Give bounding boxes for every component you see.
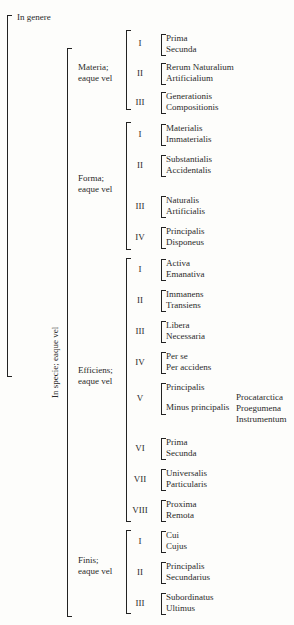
- term-pair: Immanens Transiens: [166, 289, 204, 311]
- forma-label: Forma; eaque vel: [78, 173, 112, 195]
- numeral: III: [131, 201, 149, 212]
- term-pair: Materialis Immaterialis: [166, 123, 211, 145]
- term-pair: Per se Per accidens: [166, 351, 211, 373]
- term-pair: Rerum Naturalium Artificialium: [166, 62, 234, 84]
- efficiens-label: Efficiens; eaque vel: [78, 365, 113, 387]
- numeral: VI: [131, 443, 149, 454]
- numeral: III: [131, 598, 149, 609]
- term-pair: Universalis Particularis: [166, 468, 207, 490]
- term-pair: Generationis Compositionis: [166, 91, 219, 113]
- numeral: II: [131, 567, 149, 578]
- numeral: II: [131, 295, 149, 306]
- numeral: V: [131, 393, 149, 404]
- numeral: I: [131, 129, 149, 140]
- numeral: II: [131, 68, 149, 79]
- numeral: I: [131, 536, 149, 547]
- materia-label: Materia; eaque vel: [78, 62, 112, 84]
- forma-bracket: [126, 122, 131, 250]
- term-pair: Proxima Remota: [166, 499, 197, 521]
- term-pair: Subordinatus Ultimus: [166, 592, 214, 614]
- term-pair: Naturalis Artificialis: [166, 195, 205, 217]
- term-pair: Principalis Secundarius: [166, 561, 210, 583]
- minus-principalis-subterms: Procatarctica Proegumena Instrumentum: [236, 392, 287, 425]
- numeral: III: [131, 97, 149, 108]
- in-specie-bracket: [67, 48, 72, 617]
- term-pair: Principalis Disponeus: [166, 226, 205, 248]
- finis-label: Finis; eaque vel: [78, 555, 112, 577]
- numeral: I: [131, 38, 149, 49]
- term-pair: Cui Cujus: [166, 530, 187, 552]
- term-pair: Prima Secunda: [166, 33, 197, 55]
- in-genere-label: In genere: [17, 12, 51, 23]
- numeral: III: [131, 326, 149, 337]
- numeral: IV: [131, 357, 149, 368]
- numeral: I: [131, 264, 149, 275]
- term-pair: Prima Secunda: [166, 437, 197, 459]
- in-specie-label: In specie; eaque vel: [50, 327, 61, 398]
- root-bracket: [7, 15, 12, 377]
- numeral: VII: [131, 474, 149, 485]
- term-pair: Substantialis Accidentalis: [166, 154, 212, 176]
- numeral: II: [131, 160, 149, 171]
- term-pair: Activa Emanativa: [166, 258, 204, 280]
- term-minus-principalis: Minus principalis: [166, 402, 229, 413]
- term-pair: Libera Necessaria: [166, 320, 205, 342]
- term-principalis: Principalis: [166, 382, 205, 393]
- numeral: IV: [131, 232, 149, 243]
- numeral: VIII: [131, 505, 149, 516]
